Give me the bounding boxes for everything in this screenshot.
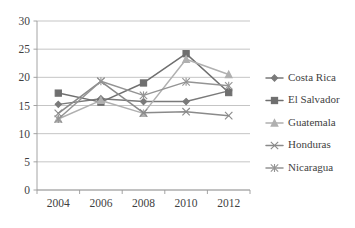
y-axis (34, 21, 38, 190)
legend-item-honduras[interactable]: Honduras (266, 138, 331, 150)
legend-item-label: Honduras (288, 138, 331, 150)
legend-item-el-salvador[interactable]: El Salvador (266, 93, 340, 105)
x-tick-labels: 20042006200820102012 (47, 197, 241, 209)
legend-item-label: Nicaragua (288, 161, 333, 173)
y-tick-label: 5 (24, 156, 30, 168)
x-tick-label: 2006 (89, 197, 112, 209)
y-tick-label: 25 (19, 43, 31, 55)
legend-item-guatemala[interactable]: Guatemala (266, 116, 336, 128)
y-tick-label: 0 (24, 184, 30, 196)
chart-legend: Costa RicaEl SalvadorGuatemalaHondurasNi… (266, 71, 340, 173)
x-tick-label: 2012 (217, 197, 240, 209)
legend-marker-icon (271, 97, 277, 103)
x-tick-label: 2010 (175, 197, 198, 209)
line-chart: 051015202530 20042006200820102012 Costa … (0, 0, 355, 228)
series-group (55, 51, 233, 123)
x-tick-label: 2008 (132, 197, 155, 209)
legend-item-label: Guatemala (288, 116, 336, 128)
legend-item-nicaragua[interactable]: Nicaragua (266, 161, 333, 173)
y-tick-labels: 051015202530 (19, 15, 31, 196)
legend-marker-icon (271, 75, 277, 81)
y-tick-label: 10 (19, 128, 31, 140)
y-tick-label: 15 (19, 100, 31, 112)
legend-item-label: El Salvador (288, 93, 340, 105)
chart-canvas: 051015202530 20042006200820102012 Costa … (0, 0, 355, 228)
x-axis (37, 190, 250, 194)
legend-item-label: Costa Rica (288, 71, 336, 83)
legend-item-costa-rica[interactable]: Costa Rica (266, 71, 336, 83)
y-tick-label: 20 (19, 71, 31, 83)
y-tick-label: 30 (19, 15, 31, 27)
x-tick-label: 2004 (47, 197, 70, 209)
